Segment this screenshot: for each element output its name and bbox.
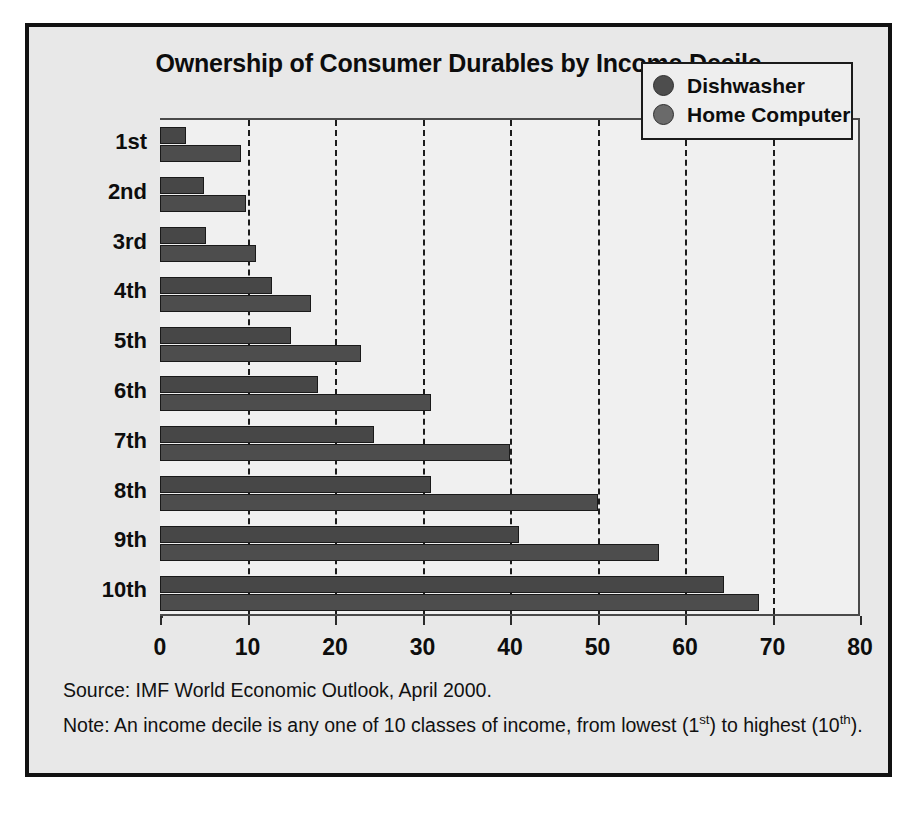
y-tick-label-8th: 8th [114,478,147,504]
x-tick-label-30: 30 [410,634,436,661]
note-mid: ) to highest (10 [710,714,840,736]
bar-home-computer-10th [160,576,724,593]
y-tick-label-7th: 7th [114,428,147,454]
legend-label: Home Computer [687,103,850,127]
x-tick-label-70: 70 [760,634,786,661]
bar-home-computer-4th [160,277,272,294]
x-tick-mark-30 [423,616,425,625]
legend-label: Dishwasher [687,74,805,98]
bar-home-computer-3rd [160,227,206,244]
x-tick-label-60: 60 [672,634,698,661]
legend-marker-circle-icon [653,75,674,96]
bar-home-computer-6th [160,376,318,393]
bar-dishwasher-4th [160,295,311,312]
bar-dishwasher-3rd [160,245,256,262]
bar-home-computer-7th [160,426,374,443]
note-sup-last: th [840,712,851,727]
x-tick-mark-20 [335,616,337,625]
definition-note: Note: An income decile is any one of 10 … [63,705,868,740]
y-tick-label-2nd: 2nd [108,179,147,205]
bar-dishwasher-1st [160,145,241,162]
bar-dishwasher-8th [160,494,598,511]
x-tick-mark-80 [860,616,862,625]
x-tick-label-80: 80 [847,634,873,661]
legend-item-dishwasher: Dishwasher [653,71,841,100]
y-tick-label-3rd: 3rd [113,229,147,255]
bar-dishwasher-10th [160,594,759,611]
x-tick-mark-10 [248,616,250,625]
legend-item-home-computer: Home Computer [653,100,841,129]
y-tick-label-9th: 9th [114,527,147,553]
legend-marker-circle-icon [653,104,674,125]
footnotes: Source: IMF World Economic Outlook, Apri… [63,675,868,740]
bar-dishwasher-9th [160,544,659,561]
gridline-70 [773,120,775,614]
gridline-50 [598,120,600,614]
bar-dishwasher-2nd [160,195,246,212]
y-tick-label-10th: 10th [102,577,147,603]
x-tick-label-0: 0 [154,634,167,661]
note-suffix: ). [851,714,863,736]
bar-dishwasher-7th [160,444,510,461]
source-note: Source: IMF World Economic Outlook, Apri… [63,675,868,705]
x-tick-label-20: 20 [322,634,348,661]
bar-home-computer-9th [160,526,519,543]
bar-dishwasher-5th [160,345,361,362]
x-tick-label-40: 40 [497,634,523,661]
note-sup-first: st [699,712,709,727]
y-axis-labels: 1st2nd3rd4th5th6th7th8th9th10th [29,118,147,616]
bar-dishwasher-6th [160,394,431,411]
x-tick-mark-50 [598,616,600,625]
y-tick-label-6th: 6th [114,378,147,404]
bar-home-computer-5th [160,327,291,344]
x-tick-mark-40 [510,616,512,625]
x-tick-mark-0 [160,616,162,625]
x-tick-mark-60 [685,616,687,625]
bar-home-computer-8th [160,476,431,493]
gridline-60 [685,120,687,614]
y-tick-label-5th: 5th [114,328,147,354]
bar-home-computer-2nd [160,177,204,194]
chart-legend: DishwasherHome Computer [641,62,853,140]
x-tick-label-50: 50 [585,634,611,661]
bar-home-computer-1st [160,127,186,144]
figure-panel: Ownership of Consumer Durables by Income… [25,23,892,777]
plot-area [160,118,860,616]
y-tick-label-1st: 1st [115,129,147,155]
x-tick-mark-70 [773,616,775,625]
x-tick-label-10: 10 [235,634,261,661]
y-tick-label-4th: 4th [114,278,147,304]
note-prefix: Note: An income decile is any one of 10 … [63,714,699,736]
